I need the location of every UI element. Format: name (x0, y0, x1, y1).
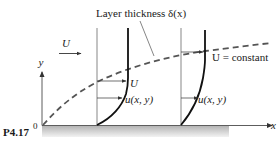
profile1-velocity-label: u(x, y) (125, 93, 153, 106)
layer-thickness-label: Layer thickness δ(x) (96, 7, 186, 20)
profile2-velocity-label: u(x, y) (198, 93, 226, 106)
plate-surface (42, 126, 229, 137)
profile2-velocity-curve (181, 30, 205, 125)
origin-label: 0 (33, 121, 38, 131)
profile1-edge-label: U (130, 77, 139, 89)
freestream-label: U (62, 37, 71, 49)
constant-velocity-label: U = constant (212, 51, 268, 63)
boundary-layer-diagram: x y 0 P4.17 U U u(x, y) Layer thickness … (0, 0, 279, 142)
problem-label: P4.17 (3, 126, 29, 138)
x-axis-label: x (270, 119, 276, 131)
profile1-velocity-curve (97, 28, 128, 125)
y-axis-label: y (38, 56, 44, 68)
layer-thickness-leader (140, 21, 154, 56)
